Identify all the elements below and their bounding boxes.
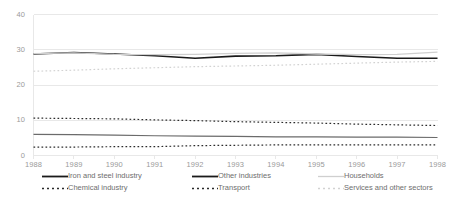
legend-line-swatch — [42, 183, 68, 193]
y-axis-tick-label: 40 — [5, 10, 25, 19]
legend-line-swatch — [42, 171, 68, 181]
y-axis-tick-label: 30 — [5, 45, 25, 54]
series-lines — [34, 52, 438, 147]
series-line — [34, 118, 438, 125]
legend-item-label: Other industries — [218, 171, 271, 181]
legend-item-label: Households — [344, 171, 384, 181]
legend-line-swatch — [192, 183, 218, 193]
legend-item-label: Iron and steel industry — [68, 171, 142, 181]
legend-item[interactable]: Services and other sectors — [318, 182, 433, 193]
series-line — [34, 61, 438, 71]
series-line — [34, 145, 438, 147]
legend-item-label: Services and other sectors — [344, 183, 433, 193]
legend-line-swatch — [318, 171, 344, 181]
legend-item-label: Transport — [218, 183, 250, 193]
y-axis-tick-label: 0 — [5, 151, 25, 160]
legend-item[interactable]: Iron and steel industry — [42, 170, 142, 181]
legend-item-label: Chemical industry — [68, 183, 128, 193]
legend-item[interactable]: Households — [318, 170, 384, 181]
chart-legend: Iron and steel industryChemical industry… — [0, 168, 442, 201]
legend-line-swatch — [318, 183, 344, 193]
legend-item[interactable]: Other industries — [192, 170, 271, 181]
y-axis-tick-label: 20 — [5, 80, 25, 89]
y-axis-tick-label: 10 — [5, 115, 25, 124]
legend-item[interactable]: Transport — [192, 182, 250, 193]
legend-item[interactable]: Chemical industry — [42, 182, 128, 193]
legend-line-swatch — [192, 171, 218, 181]
series-line — [34, 134, 438, 137]
